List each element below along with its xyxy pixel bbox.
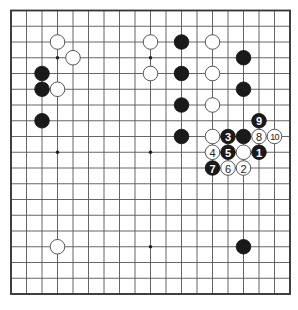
go-board: 12345678910 — [0, 0, 298, 310]
move-number-label: 7 — [209, 163, 215, 175]
white-stone-circle — [236, 145, 251, 160]
black-stone-circle — [174, 129, 189, 144]
white-stone-move-2: 2 — [236, 161, 251, 176]
star-point — [149, 150, 153, 154]
white-stone-circle — [143, 66, 158, 81]
white-stone — [50, 82, 65, 97]
white-stone — [205, 129, 220, 144]
white-stone — [143, 66, 158, 81]
move-number-label: 8 — [256, 131, 262, 143]
black-stone-circle — [236, 129, 251, 144]
black-stone-circle — [174, 66, 189, 81]
move-number-label: 6 — [225, 163, 231, 175]
move-number-label: 9 — [256, 115, 262, 127]
black-stone-circle — [35, 66, 50, 81]
black-stone — [174, 35, 189, 50]
white-stone-circle — [205, 66, 220, 81]
move-number-label: 2 — [240, 163, 246, 175]
white-stone — [205, 35, 220, 50]
white-stone — [143, 35, 158, 50]
black-stone — [35, 113, 50, 128]
white-stone-move-4: 4 — [205, 145, 220, 160]
move-number-label: 1 — [256, 147, 262, 159]
move-number-label: 10 — [270, 132, 279, 142]
star-point — [149, 245, 153, 249]
black-stone-move-5: 5 — [221, 145, 236, 160]
black-stone-move-3: 3 — [221, 129, 236, 144]
black-stone-move-1: 1 — [252, 145, 267, 160]
white-stone — [205, 66, 220, 81]
white-stone — [205, 98, 220, 113]
black-stone — [236, 239, 251, 254]
black-stone-circle — [174, 35, 189, 50]
move-number-label: 4 — [209, 147, 215, 159]
black-stone-circle — [35, 82, 50, 97]
white-stone-circle — [143, 35, 158, 50]
black-stone — [236, 129, 251, 144]
star-point — [149, 56, 153, 60]
star-point — [56, 150, 60, 154]
black-stone — [236, 50, 251, 65]
black-stone-move-7: 7 — [205, 161, 220, 176]
white-stone-circle — [205, 98, 220, 113]
black-stone — [174, 129, 189, 144]
white-stone-move-6: 6 — [221, 161, 236, 176]
move-number-label: 3 — [225, 131, 231, 143]
white-stone — [50, 239, 65, 254]
stones-layer: 12345678910 — [35, 35, 282, 254]
black-stone-circle — [236, 50, 251, 65]
white-stone — [66, 50, 81, 65]
black-stone-circle — [35, 113, 50, 128]
white-stone — [50, 35, 65, 50]
black-stone-circle — [236, 82, 251, 97]
white-stone-circle — [205, 129, 220, 144]
white-stone-circle — [205, 35, 220, 50]
black-stone — [174, 66, 189, 81]
black-stone — [35, 82, 50, 97]
white-stone-circle — [50, 35, 65, 50]
black-stone — [236, 82, 251, 97]
white-stone-circle — [50, 239, 65, 254]
black-stone — [35, 66, 50, 81]
white-stone-move-8: 8 — [252, 129, 267, 144]
star-point — [56, 56, 60, 60]
black-stone-move-9: 9 — [252, 113, 267, 128]
white-stone — [236, 145, 251, 160]
white-stone-move-10: 10 — [267, 129, 282, 144]
move-number-label: 5 — [225, 147, 231, 159]
white-stone-circle — [50, 82, 65, 97]
white-stone-circle — [66, 50, 81, 65]
black-stone-circle — [236, 239, 251, 254]
black-stone-circle — [174, 98, 189, 113]
black-stone — [174, 98, 189, 113]
